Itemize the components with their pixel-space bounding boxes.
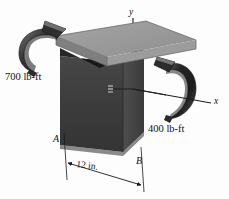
figure-canvas [0, 0, 229, 199]
axis-label-x: x [214, 97, 218, 107]
moment-label-right: 400 lb-ft [148, 124, 184, 135]
couple-arrow-left [19, 21, 66, 77]
axis-x [133, 89, 211, 103]
point-label-b: B [136, 156, 142, 166]
point-label-a: A [53, 134, 59, 144]
mechanics-figure: 700 lb-ft 400 lb-ft y x A B 12 in. [0, 0, 229, 199]
moment-label-left: 700 lb-ft [5, 72, 41, 83]
couple-arrow-right [154, 57, 196, 123]
axis-label-y: y [129, 8, 133, 18]
